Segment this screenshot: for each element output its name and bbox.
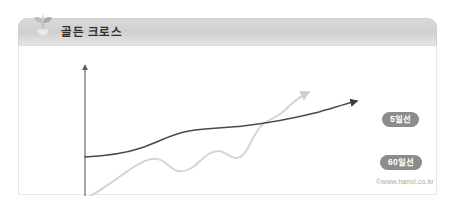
legend-label-60day: 60일선 (380, 155, 422, 170)
series-line-60day (85, 101, 357, 157)
series-line-5day (85, 92, 309, 196)
page-title: 골든 크로스 (61, 25, 122, 40)
golden-cross-card: 골든 크로스 5일선 (18, 18, 437, 195)
copyright-notice: ©www.hanol.co.kr (376, 178, 434, 185)
legend-label-5day: 5일선 (382, 112, 419, 127)
chart-panel: 5일선 60일선 (18, 45, 437, 195)
sprout-icon (30, 10, 56, 40)
golden-cross-chart (19, 46, 438, 196)
card-titlebar: 골든 크로스 (18, 18, 437, 45)
